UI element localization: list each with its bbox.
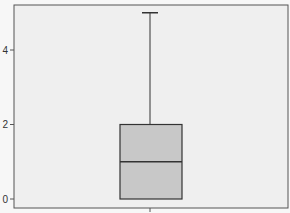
box-plot-chart: 024 xyxy=(0,0,290,213)
y-tick-label: 2 xyxy=(2,119,8,130)
y-axis: 024 xyxy=(2,45,14,205)
y-tick-label: 0 xyxy=(2,194,8,205)
y-tick-label: 4 xyxy=(2,45,8,56)
